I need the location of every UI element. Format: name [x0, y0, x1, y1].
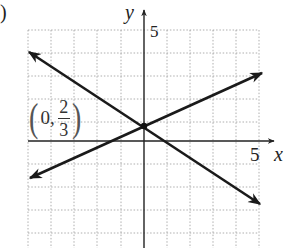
right-paren: ): [72, 98, 81, 138]
part-label: ): [0, 2, 7, 22]
fraction-denominator: 3: [59, 121, 68, 139]
graph-figure: ) y 5 5 x ( 0, 2 3 ): [0, 0, 287, 248]
y-tick-label: 5: [150, 23, 159, 40]
left-paren: (: [29, 98, 38, 138]
intersection-point: [141, 123, 147, 129]
point-y-fraction: 2 3: [58, 98, 70, 139]
x-axis-label: x: [274, 144, 283, 164]
fraction-bar: [58, 118, 70, 119]
y-axis-label: y: [125, 2, 134, 22]
fraction-numerator: 2: [59, 98, 68, 116]
x-tick-label: 5: [250, 145, 260, 164]
point-x-coordinate: 0,: [40, 107, 54, 129]
point-annotation: ( 0, 2 3 ): [27, 96, 83, 140]
